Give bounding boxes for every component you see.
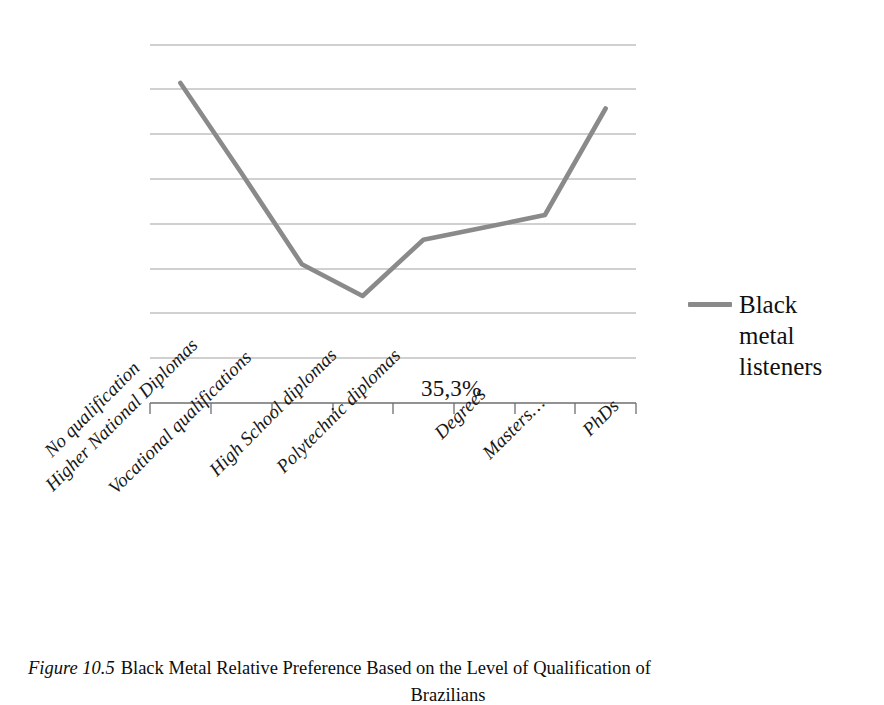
figure-caption-text: Black Metal Relative Preference Based on… bbox=[121, 658, 651, 678]
chart-plot-area: No qualification Higher National Diploma… bbox=[0, 0, 680, 620]
data-point-label: 35,3% bbox=[421, 376, 481, 402]
series-line-black-metal-listeners bbox=[180, 83, 605, 296]
legend-line-swatch bbox=[688, 302, 732, 307]
gridlines bbox=[150, 45, 636, 358]
figure-caption-line2: Brazilians bbox=[28, 682, 868, 705]
legend-series-label: Black metal listeners bbox=[739, 289, 859, 382]
figure-number: Figure 10.5 bbox=[28, 658, 115, 678]
figure-caption: Figure 10.5Black Metal Relative Preferen… bbox=[28, 655, 868, 705]
line-chart-svg bbox=[0, 0, 680, 620]
x-axis-ticks bbox=[150, 403, 636, 414]
chart-legend: Black metal listeners bbox=[688, 289, 878, 382]
